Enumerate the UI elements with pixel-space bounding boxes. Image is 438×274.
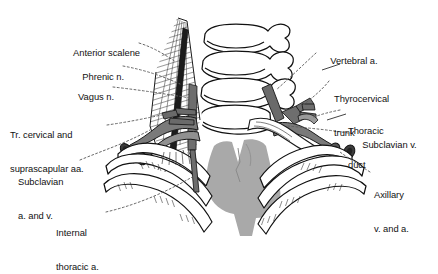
label-internal-thoracic-line2: thoracic a. bbox=[56, 261, 138, 272]
label-subclavian-vein-line1: Subclavian v. bbox=[362, 139, 416, 150]
leader-thyrocervical-trunk bbox=[302, 81, 329, 106]
label-subclavian-av-line1: Subclavian bbox=[18, 176, 102, 187]
label-vagus-nerve-line1: Vagus n. bbox=[78, 91, 114, 102]
label-axillary-line2: v. and a. bbox=[374, 223, 438, 234]
label-vertebral-artery-line1: Vertebral a. bbox=[330, 55, 377, 66]
label-axillary-line1: Axillary bbox=[374, 189, 438, 200]
label-internal-thoracic-line1: Internal bbox=[56, 227, 138, 238]
label-subclavian-vein: Subclavian v. bbox=[352, 128, 438, 162]
label-tr-cervical-line1: Tr. cervical and bbox=[10, 129, 120, 140]
label-anterior-scalene-line1: Anterior scalene bbox=[73, 47, 140, 58]
label-internal-thoracic-artery: Internal thoracic a. bbox=[56, 204, 138, 274]
label-axillary-v-and-a: Axillary v. and a. bbox=[374, 166, 438, 257]
